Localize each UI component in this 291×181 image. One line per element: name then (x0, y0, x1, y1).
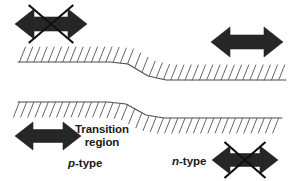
conduction-band-edge-hatch (228, 65, 234, 80)
top-left-double-arrow-crossed (15, 5, 87, 43)
valence-band-edge-hatch (14, 102, 20, 117)
conduction-band-edge-hatch (142, 57, 148, 72)
conduction-band-edge-hatch (27, 47, 33, 62)
conduction-band-edge-hatch (200, 65, 206, 80)
valence-band-edge-hatch (107, 103, 113, 118)
valence-band-edge-hatch (222, 118, 228, 133)
valence-band-edge-hatch (28, 102, 34, 117)
transition-region-label-line1: Transition (75, 123, 129, 135)
top-right-double-arrow (211, 27, 283, 57)
conduction-band-edge-hatch (149, 61, 155, 76)
valence-band-edge-hatch (208, 118, 214, 133)
conduction-band-edge-hatch (48, 47, 54, 62)
valence-band-edge-hatch (93, 102, 99, 117)
n-type-label-suffix: -type (179, 155, 206, 167)
conduction-band-edge-hatch (63, 47, 69, 62)
valence-band-edge-hatch (237, 118, 243, 133)
conduction-band-edge-hatch (20, 47, 26, 62)
valence-band-edge-hatch (273, 118, 279, 133)
conduction-band-edge-hatch (135, 53, 141, 68)
transition-region-label-line2: region (0, 136, 204, 149)
band-diagram-canvas (0, 0, 291, 181)
n-type-label-symbol: n (172, 155, 179, 167)
conduction-band-edge-hatch (192, 65, 198, 80)
bottom-right-double-arrow-crossed (212, 142, 278, 178)
conduction-band-edge-hatch (113, 47, 119, 62)
conduction-band-edge-hatch (70, 47, 76, 62)
conduction-band-edge-hatch (77, 47, 83, 62)
valence-band-edge-hatch (122, 105, 128, 120)
valence-band-edge-hatch (244, 118, 250, 133)
valence-band-edge-hatch (57, 102, 63, 117)
transition-region-label: Transition region (0, 123, 204, 149)
conduction-band-edge-hatch (128, 49, 134, 64)
valence-band-edge-hatch (251, 118, 257, 133)
valence-band-edge-hatch (71, 102, 77, 117)
conduction-band-edge-hatch (99, 47, 105, 62)
conduction-band-edge-hatch (257, 65, 263, 80)
valence-band-edge-hatch (230, 118, 236, 133)
conduction-band-edge-hatch (221, 65, 227, 80)
p-type-label-symbol: p (68, 157, 75, 169)
valence-band-edge-hatch (86, 102, 92, 117)
p-type-label: p-type (68, 157, 103, 170)
conduction-band-edge-hatch (243, 65, 249, 80)
conduction-band-edge-hatch (264, 65, 270, 80)
conduction-band-edge-hatch (185, 65, 191, 80)
conduction-band-edge-hatch (56, 47, 62, 62)
valence-band-edge-hatch (35, 102, 41, 117)
band-diagram-figure: Transition region p-type n-type (0, 0, 291, 181)
conduction-band-edge (18, 47, 286, 80)
conduction-band-edge-hatch (207, 65, 213, 80)
valence-band-edge-hatch (78, 102, 84, 117)
top-right-double-arrow-body (211, 27, 283, 57)
conduction-band-edge-hatch (272, 65, 278, 80)
conduction-band-edge-hatch (164, 64, 170, 79)
carrier-arrows-group (15, 5, 283, 178)
valence-band-edge-hatch (114, 103, 120, 118)
conduction-band-edge-hatch (120, 48, 126, 63)
conduction-band-edge-hatch (214, 65, 220, 80)
conduction-band-edge-hatch (171, 65, 177, 80)
p-type-label-suffix: -type (75, 157, 102, 169)
conduction-band-edge-hatch (84, 47, 90, 62)
conduction-band-edge-hatch (156, 63, 162, 78)
valence-band-edge-hatch (64, 102, 70, 117)
valence-band-edge-hatch (129, 109, 135, 124)
valence-band-edge-hatch (100, 102, 106, 117)
energy-bands-group (14, 47, 287, 133)
valence-band-edge-hatch (215, 118, 221, 133)
valence-band-edge-hatch (266, 118, 272, 133)
conduction-band-edge-hatch (92, 47, 98, 62)
n-type-label: n-type (172, 155, 207, 168)
conduction-band-edge-hatch (279, 65, 285, 80)
valence-band-edge-hatch (50, 102, 56, 117)
valence-band-edge-hatch (21, 102, 27, 117)
valence-band-edge-hatch (42, 102, 48, 117)
conduction-band-edge-hatch (236, 65, 242, 80)
conduction-band-edge-hatch (178, 65, 184, 80)
conduction-band-edge-hatch (41, 47, 47, 62)
conduction-band-edge-hatch (106, 47, 112, 62)
valence-band-edge-hatch (258, 118, 264, 133)
conduction-band-edge-hatch (250, 65, 256, 80)
conduction-band-edge-hatch (34, 47, 40, 62)
